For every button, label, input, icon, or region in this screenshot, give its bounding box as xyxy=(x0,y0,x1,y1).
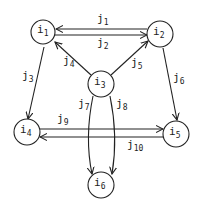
node-i4: i4 xyxy=(14,119,40,145)
label-j1: j1 xyxy=(97,12,109,27)
label-j6: j6 xyxy=(173,71,185,86)
node-i6: i6 xyxy=(88,172,114,198)
label-j3: j3 xyxy=(22,69,34,84)
node-i1: i1 xyxy=(31,20,55,44)
label-j4: j4 xyxy=(63,54,75,69)
edge-j6 xyxy=(163,48,177,120)
node-i5: i5 xyxy=(163,121,189,147)
label-j7: j7 xyxy=(78,97,90,112)
label-j8: j8 xyxy=(116,97,128,112)
edge-j4 xyxy=(55,42,91,75)
graph-diagram: i1 i2 i3 i4 i5 i6 j1 j2 j3 j4 j5 j6 j7 j… xyxy=(0,0,198,206)
label-j9: j9 xyxy=(57,112,69,127)
label-j5: j5 xyxy=(131,56,143,71)
label-j10: j10 xyxy=(127,138,143,153)
edge-j8 xyxy=(110,96,115,174)
node-i2: i2 xyxy=(147,21,173,47)
node-i3: i3 xyxy=(88,71,114,97)
label-j2: j2 xyxy=(97,36,109,51)
